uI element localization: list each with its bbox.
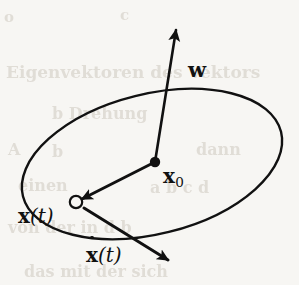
label-xdot-argument: (t)	[98, 243, 122, 267]
label-center-point-x0: x0	[163, 166, 184, 189]
label-xt-symbol: x	[18, 204, 30, 228]
label-position-x-of-t: x(t)	[18, 206, 54, 226]
label-x0-subscript: 0	[175, 174, 184, 190]
radius-vector-x0-to-xt	[82, 162, 155, 199]
center-point-x0	[150, 157, 160, 167]
label-x0-symbol: x	[163, 164, 175, 188]
label-xt-argument: (t)	[30, 204, 54, 228]
rotation-axis-vector-w	[155, 30, 176, 162]
overdot-group: x	[86, 245, 98, 265]
diagram-canvas	[0, 0, 299, 285]
label-axis-vector-w: w	[188, 59, 206, 81]
rotation-diagram-figure: Eigenvektoren des Vektorsb DrehungAbdann…	[0, 0, 299, 285]
label-velocity-xdot-of-t: x(t)	[86, 245, 122, 265]
label-xdot-symbol: x	[86, 243, 98, 267]
label-w-text: w	[188, 57, 206, 82]
moving-point-x-of-t	[70, 196, 82, 208]
derivative-dot-icon	[90, 236, 93, 239]
